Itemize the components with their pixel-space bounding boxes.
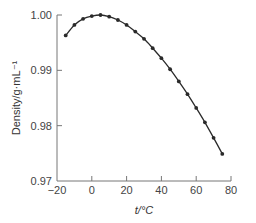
data-point-marker	[142, 37, 146, 41]
x-tick-label: 60	[190, 184, 202, 196]
x-tick-label: 80	[225, 184, 237, 196]
y-tick-label: 0.99	[31, 64, 52, 76]
data-point-marker	[177, 80, 181, 84]
data-point-marker	[90, 14, 94, 18]
data-point-marker	[125, 23, 129, 27]
x-tick-label: 20	[120, 184, 132, 196]
y-tick-label: 0.97	[31, 175, 52, 187]
y-tick-label: 1.00	[31, 9, 52, 21]
series-line	[66, 15, 223, 154]
data-point-marker	[73, 23, 77, 27]
x-tick-label: 40	[155, 184, 167, 196]
x-axis-title: t/°C	[135, 204, 154, 216]
data-point-marker	[194, 106, 198, 110]
data-point-marker	[203, 120, 207, 124]
data-point-marker	[64, 34, 68, 38]
data-point-marker	[133, 30, 137, 34]
data-point-marker	[220, 152, 224, 156]
data-point-marker	[116, 18, 120, 22]
data-point-marker	[107, 15, 111, 19]
data-point-marker	[99, 13, 103, 17]
y-tick-label: 0.98	[31, 120, 52, 132]
data-point-marker	[212, 136, 216, 140]
data-point-marker	[168, 67, 172, 71]
density-temperature-chart: −20020406080 0.970.980.991.00 t/°C Densi…	[0, 0, 256, 223]
series-markers	[64, 13, 224, 156]
data-point-marker	[186, 92, 190, 96]
data-point-marker	[151, 46, 155, 50]
plot-area	[64, 13, 224, 156]
x-ticks: −20020406080	[48, 176, 237, 196]
x-tick-label: 0	[89, 184, 95, 196]
data-point-marker	[160, 56, 164, 60]
y-axis-title: Density/g·mL⁻¹	[10, 60, 22, 135]
data-point-marker	[81, 17, 85, 21]
